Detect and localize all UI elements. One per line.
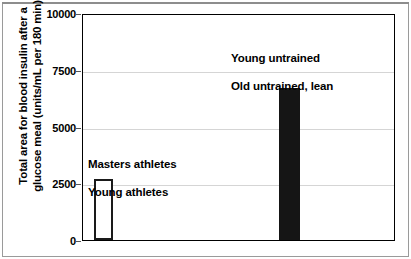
y-tick-mark-2500: [76, 184, 81, 185]
y-axis-tick-labels: 10000 7500 5000 2500 0: [28, 0, 76, 259]
annotation-young-old-untrained: Young untrained Old untrained, lean: [231, 37, 333, 93]
annotation-left-line-2: Young athletes: [88, 186, 168, 198]
y-tick-label-7500: 7500: [30, 65, 76, 77]
annotation-right-line-2: Old untrained, lean: [231, 80, 333, 92]
bar-chart-figure: Total area for blood insulin after a glu…: [0, 0, 411, 259]
y-tick-mark-5000: [76, 128, 81, 129]
plot-area: Masters athletes Young athletes Young un…: [82, 14, 395, 241]
y-tick-label-5000: 5000: [30, 122, 76, 134]
y-tick-label-0: 0: [30, 235, 76, 247]
annotation-masters-young-athletes: Masters athletes Young athletes: [88, 143, 177, 199]
gridline-5000: [83, 129, 394, 130]
y-axis-title-line-1: Total area for blood insulin after a: [17, 7, 29, 184]
annotation-left-line-1: Masters athletes: [88, 158, 177, 170]
y-tick-mark-10000: [76, 14, 81, 15]
y-tick-label-2500: 2500: [30, 178, 76, 190]
bar-young-old-untrained-lean: [279, 88, 300, 240]
y-tick-mark-7500: [76, 71, 81, 72]
y-tick-mark-0: [76, 241, 81, 242]
y-tick-label-10000: 10000: [30, 8, 76, 20]
annotation-right-line-1: Young untrained: [231, 52, 320, 64]
